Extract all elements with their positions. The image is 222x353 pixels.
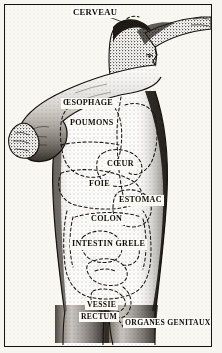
organ-label-vessie: VESSIE: [85, 300, 118, 310]
organ-label-cerveau: CERVEAU: [71, 7, 119, 18]
illustration-frame: CERVEAUŒSOPHAGEPOUMONSCŒURFOIEESTOMACCOL…: [4, 4, 212, 347]
organ-label-rectum: RECTUM: [79, 312, 119, 322]
organ-label-colon: COLON: [89, 214, 124, 225]
organ-label-organes-genitaux: ORGANES GENITAUX: [123, 318, 212, 328]
organ-label-coeur: CŒUR: [105, 159, 136, 170]
organ-label-oesophage: ŒSOPHAGE: [61, 98, 115, 109]
figure-engraving: [5, 5, 211, 346]
organ-label-estomac: ESTOMAC: [117, 195, 164, 206]
organ-label-poumons: POUMONS: [68, 118, 115, 129]
anatomical-plate: [5, 5, 211, 346]
organ-label-foie: FOIE: [87, 179, 112, 190]
illustration-page: CERVEAUŒSOPHAGEPOUMONSCŒURFOIEESTOMACCOL…: [0, 0, 222, 353]
organ-label-intestin-grele: INTESTIN GRELE: [70, 239, 147, 250]
